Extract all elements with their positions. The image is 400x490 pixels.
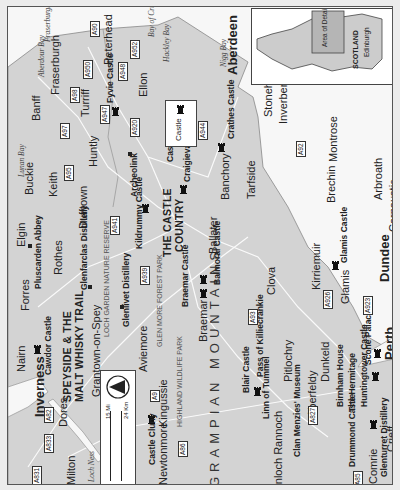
road-a833: A833	[44, 434, 54, 453]
town-clova: Clova	[266, 267, 277, 295]
castle-icon	[372, 372, 379, 381]
poi-linn-of-tummel: Linn of Tummel	[262, 356, 271, 419]
park-glen-more: GLEN MORE FOREST PARK	[156, 254, 163, 347]
road-a827: A827	[308, 406, 318, 425]
road-a920: A920	[130, 118, 140, 137]
scale-mi-label: 15 Mi	[105, 404, 111, 419]
legend-castle-icon	[177, 105, 184, 114]
town-brechin: Brechin	[326, 166, 337, 203]
castle-icon	[254, 387, 261, 396]
castle-icon	[218, 143, 225, 152]
poi-clan-menzies: Clan Menzies' Museum	[293, 364, 302, 457]
town-fraserburgh: Fraserburgh	[50, 35, 61, 95]
scale-box: 15 Mi 24 Km	[100, 370, 136, 485]
road-a98: A98	[70, 87, 80, 103]
map-frame: Aberdeen Inverness Dundee Perth Peterhea…	[7, 6, 393, 485]
map-canvas: Aberdeen Inverness Dundee Perth Peterhea…	[0, 0, 400, 490]
road-a923: A923	[363, 296, 373, 315]
road-a97: A97	[60, 123, 70, 139]
road-a93: A93	[248, 309, 258, 325]
park-loch-garden: LOCH GARDEN NATURE RESERVE	[103, 220, 110, 337]
town-forres: Forres	[20, 279, 31, 311]
road-a944: A944	[198, 121, 208, 140]
town-elgin: Elgin	[16, 223, 27, 247]
town-newtonmore: Newtonmore	[158, 423, 169, 485]
road-a90: A90	[90, 21, 100, 37]
castle-icon	[370, 420, 377, 429]
town-montrose: Montrose	[328, 116, 339, 162]
town-kinloch-rannoch: Kinloch Rannoch	[273, 411, 284, 485]
road-a950: A950	[83, 60, 93, 79]
castle-crathes: Crathes Castle	[227, 79, 236, 139]
town-aviemore: Aviemore	[138, 326, 149, 372]
poi-archeolink: Archeolink	[130, 153, 139, 197]
road-a831: A831	[32, 466, 42, 485]
town-dores: Dores	[58, 398, 69, 427]
park-highland-wildlife: HIGHLAND WILDLIFE PARK	[176, 336, 183, 427]
town-arbroath: Arbroath	[373, 158, 384, 200]
legend-castle-label: Castle	[175, 118, 183, 141]
castle-icon	[180, 185, 187, 194]
poi-marker	[28, 244, 32, 248]
road-a9: A9	[150, 390, 160, 402]
town-tarfside: Tarfside	[246, 160, 257, 199]
castle-icon	[332, 261, 339, 270]
inset-edinburgh-label: Edinburgh	[364, 27, 371, 57]
castle-balmoral: Balmoral Castle	[213, 221, 222, 285]
poi-hermitage: The Hermitage	[348, 353, 357, 412]
town-dundee: Dundee	[378, 234, 391, 282]
town-kirriemuir: Kirriemuir	[311, 243, 322, 290]
road-a95: A95	[64, 165, 74, 181]
town-rothes: Rothes	[53, 240, 64, 275]
water-bay-of-cruden: Bay of Cruden	[148, 6, 156, 37]
town-comrie: Comrie	[368, 449, 379, 484]
castle-icon	[34, 345, 41, 354]
town-keith: Keith	[48, 172, 59, 197]
castle-glamis: Glamis Castle	[340, 207, 349, 263]
water-spey-bay: Lunan Bay	[18, 144, 26, 177]
north-arrow-icon	[105, 374, 131, 400]
water-aberdour-bay: Aberdour Bay	[38, 35, 46, 77]
town-dunkeld: Dunkeld	[320, 342, 331, 382]
castle-blair: Blair Castle	[242, 346, 251, 393]
poi-glenturret: Glenturret Distillery	[380, 398, 389, 477]
poi-pluscarden: Pluscarden Abbey	[34, 215, 43, 289]
castle-cawdor: Cawdor Castle	[44, 316, 53, 375]
castle-cluny: Castle Cluny	[148, 414, 157, 466]
road-a941: A941	[110, 216, 120, 235]
inset-area-of-detail: Area of Detail	[322, 8, 329, 47]
region-castle-country-1: THE CASTLE	[162, 188, 173, 257]
road-a939: A939	[140, 266, 150, 285]
castle-fyvie: Fyvie Castle	[106, 53, 115, 103]
town-carnoustie: Carnoustie	[388, 179, 393, 232]
town-kingussie: Kingussie	[158, 379, 169, 427]
road-a947: A947	[100, 105, 110, 124]
region-speyside-1: SPEYSIDE & THE	[62, 311, 73, 402]
castle-icon	[112, 107, 119, 116]
inset-scotland-label: SCOTLAND	[352, 30, 359, 69]
town-banff: Banff	[31, 96, 42, 122]
road-a85: A85	[353, 471, 363, 485]
town-turriff: Turriff	[80, 89, 91, 117]
town-milton: Milton	[66, 456, 77, 485]
water-loch-ness: Loch Ness	[88, 451, 96, 482]
water-hackley-bay: Hackley Bay	[163, 24, 171, 62]
poi-glenfarclas: Glenfarclas Distillery	[80, 205, 89, 290]
town-huntly: Huntly	[88, 136, 99, 167]
poi-birnham-house: Birnham House	[336, 344, 345, 407]
scale-bar-km	[121, 411, 122, 481]
scale-bar-mi	[110, 411, 111, 481]
town-perth: Perth	[383, 327, 393, 360]
town-glamis: Glamis	[340, 270, 351, 304]
road-a92: A92	[296, 141, 306, 157]
castle-braemar: Braemar Castle	[181, 245, 190, 307]
road-a952: A952	[130, 40, 140, 59]
town-ellon: Ellon	[138, 73, 149, 97]
poi-glenlivet: Glenlivet Distillery	[122, 253, 131, 327]
region-speyside-2: MALT WHISKY TRAIL	[74, 290, 85, 402]
castle-icon	[200, 289, 207, 298]
road-a82: A82	[44, 407, 54, 423]
road-a86: A86	[178, 441, 188, 457]
town-nairn: Nairn	[16, 346, 27, 372]
town-banchory: Banchory	[220, 154, 231, 200]
